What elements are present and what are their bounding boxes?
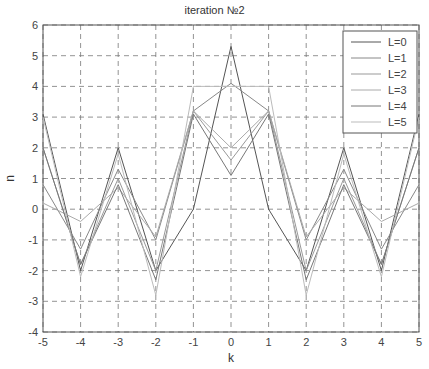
y-tick-label: -3 <box>28 295 38 307</box>
legend-label: L=0 <box>388 36 407 48</box>
line-chart: -5-4-3-2-1012345-4-3-2-10123456knL=0L=1L… <box>0 0 429 369</box>
x-tick-label: 0 <box>228 336 234 348</box>
x-tick-label: -5 <box>38 336 48 348</box>
y-tick-label: -4 <box>28 326 38 338</box>
legend-label: L=5 <box>388 116 407 128</box>
x-tick-label: 3 <box>341 336 347 348</box>
x-tick-label: 4 <box>378 336 384 348</box>
x-tick-label: 2 <box>303 336 309 348</box>
x-tick-label: 1 <box>266 336 272 348</box>
y-tick-label: -1 <box>28 234 38 246</box>
y-tick-label: 2 <box>32 142 38 154</box>
y-tick-label: 4 <box>32 80 38 92</box>
legend-label: L=4 <box>388 100 407 112</box>
legend-label: L=3 <box>388 84 407 96</box>
y-tick-label: 5 <box>32 50 38 62</box>
y-axis-label: n <box>3 175 17 182</box>
y-tick-label: 3 <box>32 111 38 123</box>
y-tick-label: 0 <box>32 203 38 215</box>
legend-label: L=1 <box>388 52 407 64</box>
x-axis-label: k <box>228 351 235 365</box>
y-tick-label: 1 <box>32 173 38 185</box>
x-tick-label: -2 <box>151 336 161 348</box>
x-tick-label: -3 <box>113 336 123 348</box>
x-tick-label: -1 <box>189 336 199 348</box>
legend-label: L=2 <box>388 68 407 80</box>
y-tick-label: 6 <box>32 19 38 31</box>
x-tick-label: -4 <box>76 336 86 348</box>
y-tick-label: -2 <box>28 265 38 277</box>
x-tick-label: 5 <box>416 336 422 348</box>
